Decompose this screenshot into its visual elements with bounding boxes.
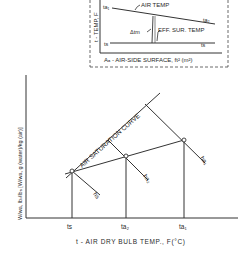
tick-ta1: ta₁: [179, 223, 187, 230]
label-ts-left: ts: [104, 41, 109, 47]
saturation-curve-label: AIR SATURATION CURVE: [78, 111, 142, 168]
point-ts: [70, 169, 74, 173]
label-ts-right: ts: [201, 42, 206, 48]
label-delta-tm: Δtm: [130, 29, 140, 35]
point-ta1: [182, 138, 186, 142]
main-chart: W/wa, lbᵥ/lbₐ [W/wa, g (water)/kg (air)]…: [17, 75, 238, 246]
air-temp-line: [112, 8, 215, 24]
label-ha2: ha₂: [142, 173, 152, 184]
main-xlabel: t - AIR DRY BULB TEMP., F(°C): [76, 238, 185, 246]
label-eff-sur-temp: EFF. SUR. TEMP: [158, 27, 205, 33]
label-hs: hs: [92, 191, 101, 200]
inset-panel: t - TEMP, F ta₁ AIR TEMP ta₂ Δtm EFF. SU…: [90, 0, 228, 67]
diagram-canvas: t - TEMP, F ta₁ AIR TEMP ta₂ Δtm EFF. SU…: [0, 0, 247, 255]
inset-xlabel: Aₐ - AIR-SIDE SURFACE, ft² (m²): [104, 57, 193, 63]
label-ta2-inset: ta₂: [203, 17, 210, 23]
inset-ylabel: t - TEMP, F: [93, 12, 99, 42]
label-air-temp: AIR TEMP: [141, 2, 169, 8]
main-ylabel: W/wa, lbᵥ/lbₐ [W/wa, g (water)/kg (air)]: [17, 127, 23, 220]
label-ha1: ha₁: [199, 155, 209, 166]
tick-ta2: ta₂: [121, 223, 129, 230]
point-ta2: [124, 154, 128, 158]
tick-ts: ts: [67, 223, 73, 230]
label-ta1-inset: ta₁: [103, 4, 110, 10]
enthalpy-line-ha1: [145, 104, 205, 163]
